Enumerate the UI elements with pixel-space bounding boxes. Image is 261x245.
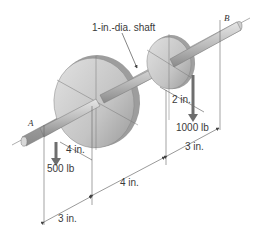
diagram-svg: 1-in.-dia. shaft A B 2 in. 4 in. 1000 lb… xyxy=(0,0,261,245)
small-pulley xyxy=(144,32,199,120)
dim-small-b-label: 3 in. xyxy=(185,141,204,152)
small-pulley-radius-label: 2 in. xyxy=(172,94,191,105)
dim-large-small-label: 4 in. xyxy=(120,177,139,188)
point-a-label: A xyxy=(27,118,34,128)
shaft-label: 1-in.-dia. shaft xyxy=(92,22,156,33)
shaft-end-a xyxy=(21,137,27,146)
shaft-diagram: 1-in.-dia. shaft A B 2 in. 4 in. 1000 lb… xyxy=(0,0,261,245)
point-b-label: B xyxy=(224,13,230,23)
dim-line-large-small xyxy=(93,157,165,195)
load-1000lb-label: 1000 lb xyxy=(176,122,209,133)
large-pulley-radius-label: 4 in. xyxy=(66,144,85,155)
dim-a-large-label: 3 in. xyxy=(58,213,77,224)
load-500lb-label: 500 lb xyxy=(47,163,75,174)
